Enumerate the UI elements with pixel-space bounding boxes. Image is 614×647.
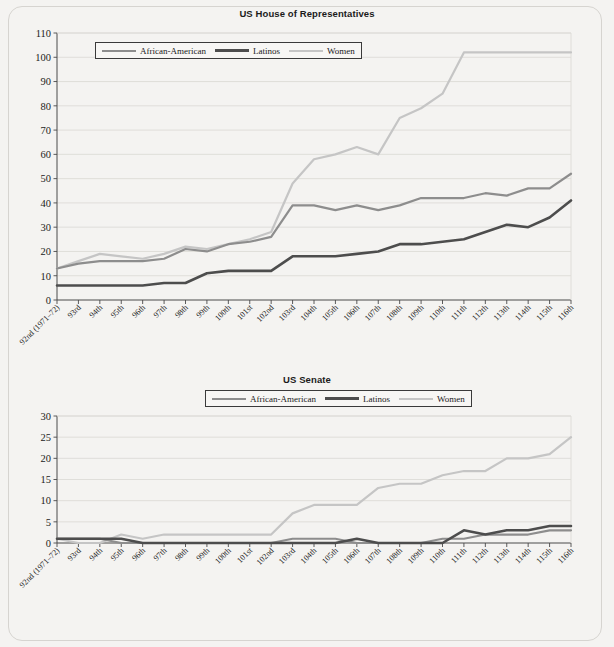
- house-legend-item: Women: [289, 46, 355, 56]
- x-tick-label: 98th: [173, 303, 190, 320]
- x-tick-label: 100th: [213, 303, 233, 323]
- y-tick-label: 100: [35, 52, 51, 63]
- x-tick-label: 103rd: [277, 303, 297, 323]
- x-tick-label: 105th: [320, 546, 340, 566]
- x-tick-label: 97th: [152, 303, 169, 320]
- senate-legend-label: Latinos: [363, 394, 390, 404]
- x-tick-label: 108th: [385, 546, 405, 566]
- x-tick-label: 100th: [213, 546, 233, 566]
- chart-page: US House of Representatives 010203040506…: [0, 0, 614, 647]
- y-tick-label: 0: [46, 538, 51, 549]
- y-tick-label: 5: [46, 517, 51, 528]
- house-legend-swatch-icon: [215, 49, 249, 52]
- house-legend-swatch-icon: [102, 50, 136, 52]
- x-tick-label: 115th: [535, 303, 554, 322]
- senate-legend-item: African-American: [212, 394, 316, 404]
- senate-legend-item: Women: [399, 394, 465, 404]
- x-tick-label: 113th: [492, 303, 511, 322]
- x-tick-label: 101st: [235, 303, 254, 322]
- chart-house: US House of Representatives 010203040506…: [0, 0, 614, 365]
- house-legend-swatch-icon: [289, 50, 323, 52]
- x-tick-label: 112th: [470, 303, 489, 322]
- x-tick-label: 116th: [556, 303, 575, 322]
- y-tick-label: 25: [41, 432, 52, 443]
- house-legend: African-AmericanLatinosWomen: [95, 42, 362, 59]
- x-tick-label: 111th: [449, 546, 468, 565]
- x-tick-label: 111th: [449, 303, 468, 322]
- y-tick-label: 10: [41, 271, 52, 282]
- y-tick-label: 20: [41, 246, 52, 257]
- x-tick-label: 110th: [428, 303, 447, 322]
- y-tick-label: 30: [41, 411, 52, 422]
- series-line-latinos: [57, 200, 571, 285]
- x-tick-label: 105th: [320, 303, 340, 323]
- x-tick-label: 114th: [513, 546, 532, 565]
- senate-legend-label: Women: [437, 394, 465, 404]
- x-tick-label: 99th: [195, 303, 212, 320]
- x-tick-label: 92nd (1971–72): [18, 546, 62, 590]
- senate-legend-swatch-icon: [399, 398, 433, 400]
- house-legend-item: Latinos: [215, 46, 280, 56]
- x-tick-label: 93rd: [66, 303, 83, 320]
- x-tick-label: 99th: [195, 546, 212, 563]
- x-tick-label: 103rd: [277, 546, 297, 566]
- x-tick-label: 95th: [109, 303, 126, 320]
- x-tick-label: 101st: [235, 546, 254, 565]
- y-tick-label: 80: [41, 101, 52, 112]
- x-tick-label: 110th: [428, 546, 447, 565]
- senate-chart-title: US Senate: [0, 374, 614, 385]
- y-tick-label: 70: [41, 125, 52, 136]
- x-tick-label: 109th: [406, 303, 426, 323]
- y-tick-label: 50: [41, 173, 52, 184]
- y-tick-label: 40: [41, 198, 52, 209]
- x-tick-label: 102nd: [255, 546, 276, 567]
- x-tick-label: 116th: [556, 546, 575, 565]
- senate-legend-item: Latinos: [325, 394, 390, 404]
- x-tick-label: 94th: [88, 303, 105, 320]
- x-tick-label: 98th: [173, 546, 190, 563]
- y-tick-label: 10: [41, 495, 52, 506]
- x-tick-label: 96th: [130, 303, 147, 320]
- x-tick-label: 94th: [88, 546, 105, 563]
- chart-senate: US Senate 05101520253092nd (1971–72)93rd…: [0, 368, 614, 647]
- senate-legend-swatch-icon: [325, 397, 359, 400]
- series-line-women: [57, 437, 571, 543]
- y-tick-label: 90: [41, 76, 52, 87]
- senate-legend-label: African-American: [250, 394, 316, 404]
- x-tick-label: 113th: [492, 546, 511, 565]
- x-tick-label: 108th: [385, 303, 405, 323]
- x-tick-label: 104th: [299, 303, 319, 323]
- x-tick-label: 106th: [342, 303, 362, 323]
- house-legend-item: African-American: [102, 46, 206, 56]
- y-tick-label: 20: [41, 453, 52, 464]
- x-tick-label: 115th: [535, 546, 554, 565]
- x-tick-label: 93rd: [66, 546, 83, 563]
- x-tick-label: 102nd: [255, 303, 276, 324]
- x-tick-label: 106th: [342, 546, 362, 566]
- y-tick-label: 110: [36, 28, 51, 39]
- x-tick-label: 114th: [513, 303, 532, 322]
- x-tick-label: 95th: [109, 546, 126, 563]
- x-tick-label: 112th: [470, 546, 489, 565]
- house-chart-title: US House of Representatives: [0, 8, 614, 19]
- x-tick-label: 104th: [299, 546, 319, 566]
- y-tick-label: 60: [41, 149, 52, 160]
- house-legend-label: African-American: [140, 46, 206, 56]
- x-tick-label: 96th: [130, 546, 147, 563]
- x-tick-label: 109th: [406, 546, 426, 566]
- x-tick-label: 107th: [363, 303, 383, 323]
- senate-plot-svg: 05101520253092nd (1971–72)93rd94th95th96…: [0, 368, 614, 647]
- senate-legend-swatch-icon: [212, 398, 246, 400]
- y-tick-label: 15: [41, 474, 52, 485]
- y-tick-label: 30: [41, 222, 52, 233]
- x-tick-label: 92nd (1971–72): [18, 303, 62, 347]
- house-legend-label: Women: [327, 46, 355, 56]
- senate-legend: African-AmericanLatinosWomen: [205, 390, 472, 407]
- x-tick-label: 107th: [363, 546, 383, 566]
- series-line-african-american: [57, 174, 571, 269]
- x-tick-label: 97th: [152, 546, 169, 563]
- series-line-women: [57, 52, 571, 268]
- house-legend-label: Latinos: [253, 46, 280, 56]
- y-tick-label: 0: [46, 295, 51, 306]
